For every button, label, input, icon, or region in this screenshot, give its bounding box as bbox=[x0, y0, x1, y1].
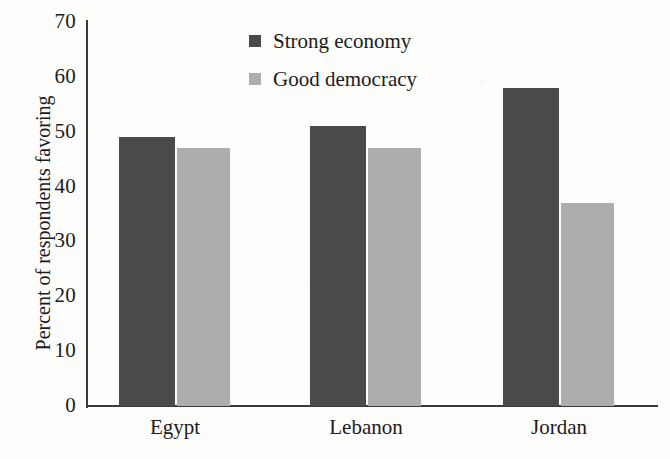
legend-item-good-democracy: Good democracy bbox=[249, 64, 417, 94]
y-tick-label-60: 60 bbox=[16, 66, 76, 87]
bar-jordan-good-democracy bbox=[561, 203, 614, 406]
y-tick-label-70: 70 bbox=[16, 11, 76, 32]
legend-swatch-icon-good-democracy bbox=[249, 73, 261, 85]
y-tick-label-0: 0 bbox=[16, 395, 76, 416]
legend-label-good-democracy: Good democracy bbox=[273, 69, 417, 90]
plot-area: Percent of respondents favoring 70 60 50… bbox=[0, 0, 670, 459]
y-axis-line bbox=[86, 20, 88, 408]
x-category-label-lebanon: Lebanon bbox=[266, 415, 466, 439]
legend-swatch-icon-strong-economy bbox=[249, 35, 261, 47]
bar-jordan-strong-economy bbox=[503, 88, 559, 406]
bar-lebanon-good-democracy bbox=[368, 148, 421, 406]
y-tick-label-50: 50 bbox=[16, 121, 76, 142]
legend-item-strong-economy: Strong economy bbox=[249, 26, 417, 56]
y-tick-label-10: 10 bbox=[16, 340, 76, 361]
bar-egypt-strong-economy bbox=[119, 137, 175, 406]
x-category-label-egypt: Egypt bbox=[75, 415, 275, 439]
legend-label-strong-economy: Strong economy bbox=[273, 31, 411, 52]
bar-egypt-good-democracy bbox=[177, 148, 230, 406]
x-category-label-jordan: Jordan bbox=[459, 415, 659, 439]
y-tick-label-30: 30 bbox=[16, 230, 76, 251]
chart-figure: Percent of respondents favoring 70 60 50… bbox=[0, 0, 670, 459]
bar-lebanon-strong-economy bbox=[310, 126, 366, 406]
y-tick-label-40: 40 bbox=[16, 176, 76, 197]
chart-legend: Strong economy Good democracy bbox=[249, 26, 417, 102]
y-tick-label-20: 20 bbox=[16, 285, 76, 306]
